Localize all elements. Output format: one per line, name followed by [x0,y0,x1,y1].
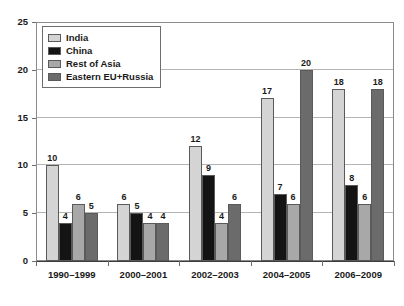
bar-value-label: 9 [198,164,219,173]
bar [228,204,241,261]
bar-value-label: 20 [296,59,317,68]
x-tick-mark [179,261,180,266]
bar-value-label: 10 [42,154,63,163]
y-tick-label: 10 [0,160,28,170]
bar-value-label: 12 [185,135,206,144]
bar-value-label: 6 [224,193,245,202]
bar-value-label: 7 [270,183,291,192]
bar-value-label: 17 [257,87,278,96]
legend-item-label: China [66,46,92,56]
y-tick-label: 20 [0,65,28,75]
x-tick-mark [322,261,323,266]
bar-group: 177620 [261,22,313,261]
bar-value-label: 5 [126,202,147,211]
bar [72,204,85,261]
bar-value-label: 18 [367,78,388,87]
x-tick-mark [108,261,109,266]
bar [117,204,130,261]
y-tick-label: 15 [0,113,28,123]
legend-item-label: Rest of Asia [66,59,121,69]
bar-value-label: 6 [113,193,134,202]
bar-value-label: 4 [152,212,173,221]
x-tick-label: 2006–2009 [313,270,403,280]
y-tick-label: 5 [0,208,28,218]
x-tick-mark [36,261,37,266]
bar [59,223,72,261]
legend-swatch-icon [48,60,61,68]
legend-item: India [48,31,153,44]
bar [371,89,384,261]
legend-swatch-icon [48,73,61,81]
y-tick-label: 25 [0,17,28,27]
bar [215,223,228,261]
bar [261,98,274,261]
bar [358,204,371,261]
bar [156,223,169,261]
legend-item-label: India [66,33,88,43]
bar [274,194,287,261]
legend-item: Eastern EU+Russia [48,70,153,83]
bar [287,204,300,261]
legend-item: China [48,44,153,57]
x-tick-mark [394,261,395,266]
legend-item-label: Eastern EU+Russia [66,72,153,82]
y-tick-label: 0 [0,256,28,266]
bar-value-label: 5 [81,202,102,211]
x-tick-mark [251,261,252,266]
bar [85,213,98,261]
legend-swatch-icon [48,34,61,42]
bar [143,223,156,261]
bar-group: 12946 [189,22,241,261]
bar-chart: 0510152025 10465654412946177620188618 19… [0,0,404,306]
bar [300,70,313,261]
bar-value-label: 6 [68,193,89,202]
legend-swatch-icon [48,47,61,55]
legend-item: Rest of Asia [48,57,153,70]
chart-legend: IndiaChinaRest of AsiaEastern EU+Russia [42,26,161,88]
bar-value-label: 18 [328,78,349,87]
x-axis-line [36,261,394,262]
bar-value-label: 8 [341,174,362,183]
bar-group: 188618 [332,22,384,261]
